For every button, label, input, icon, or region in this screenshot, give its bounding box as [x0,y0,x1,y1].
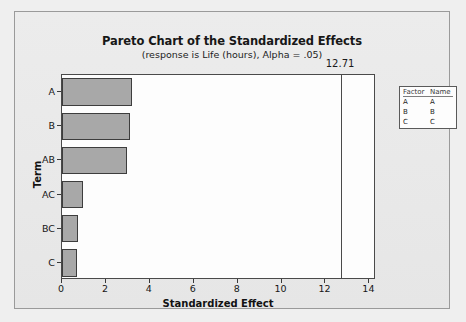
bar-bc [62,215,78,242]
legend-factor-c: C [403,118,408,126]
legend-factor-a: A [403,98,408,106]
legend-header-row: Factor Name [403,88,453,97]
x-tick-label-14: 14 [362,283,374,294]
x-tick-label-0: 0 [58,283,64,294]
plot-area [61,74,375,279]
reference-line-label: 12.71 [326,58,355,69]
reference-line [341,75,342,278]
legend-row: A A [403,98,453,106]
y-tick [57,91,61,92]
legend-header-name: Name [430,88,451,96]
y-axis-title: Term [32,154,43,194]
chart-title: Pareto Chart of the Standardized Effects [15,34,449,48]
bar-ab [62,147,127,174]
legend-header-factor: Factor [403,88,424,96]
factor-legend: Factor Name A A B B C C [399,86,457,129]
y-tick [57,125,61,126]
legend-factor-b: B [403,108,408,116]
graph-frame: Pareto Chart of the Standardized Effects… [14,11,450,309]
bar-ac [62,181,83,208]
x-tick-label-2: 2 [102,283,108,294]
legend-name-c: C [430,118,435,126]
chart-subtitle: (response is Life (hours), Alpha = .05) [15,49,449,60]
x-tick-label-10: 10 [275,283,287,294]
x-tick-label-12: 12 [318,283,330,294]
pareto-chart-window: Pareto Chart of the Standardized Effects… [0,0,466,322]
y-tick [57,228,61,229]
legend-name-a: A [430,98,435,106]
bar-c [62,249,77,276]
x-tick-label-8: 8 [234,283,240,294]
legend-row: B B [403,108,453,116]
y-tick-label-c: C [33,256,55,267]
bar-a [62,78,132,105]
legend-row: C C [403,118,453,126]
y-tick-label-a: A [33,86,55,97]
legend-name-b: B [430,108,435,116]
x-tick-label-4: 4 [146,283,152,294]
x-axis-title: Standardized Effect [61,298,375,309]
y-tick [57,194,61,195]
y-tick-label-bc: BC [33,222,55,233]
y-tick [57,159,61,160]
bar-b [62,113,130,140]
y-tick-label-b: B [33,120,55,131]
bar-series [62,75,374,278]
x-tick-label-6: 6 [190,283,196,294]
y-tick [57,262,61,263]
